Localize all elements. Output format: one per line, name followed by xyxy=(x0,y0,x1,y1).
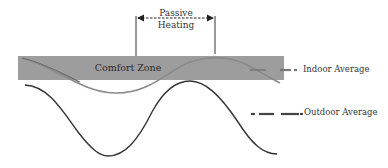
legend-outdoor: Outdoor Average xyxy=(251,107,378,117)
comfort-zone-band: Comfort Zone xyxy=(18,56,284,80)
passive-heating-label-line1: Passive xyxy=(159,8,193,18)
indoor-average-label: Indoor Average xyxy=(303,64,370,74)
comfort-zone-label: Comfort Zone xyxy=(95,62,162,73)
outdoor-average-curve xyxy=(25,81,277,156)
temperature-comfort-diagram: Comfort Zone Passive Heating Indoor Aver… xyxy=(0,0,388,168)
outdoor-average-label: Outdoor Average xyxy=(304,107,378,117)
passive-heating-bracket: Passive Heating xyxy=(136,8,215,56)
passive-heating-label-line2: Heating xyxy=(158,20,195,30)
